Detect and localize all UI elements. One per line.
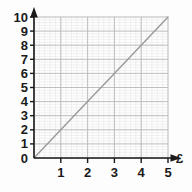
y-axis-tick-label: 10 — [14, 10, 28, 25]
y-axis-tick-label: 2 — [21, 122, 28, 137]
y-axis-tick-label: 1 — [21, 136, 28, 151]
y-axis-tick-labels: 012345678910 — [14, 10, 29, 166]
y-axis-tick-label: 7 — [21, 52, 28, 67]
x-axis-tick-label: 1 — [57, 165, 64, 180]
x-axis-title: £ — [176, 151, 184, 166]
y-axis-tick-label: 3 — [21, 108, 28, 123]
y-axis-tick-label: 0 — [21, 151, 28, 166]
y-axis-tick-label: 5 — [21, 80, 28, 95]
x-axis-tick-label: 5 — [164, 165, 171, 180]
x-axis-tick-label: 3 — [111, 165, 118, 180]
chart-figure: 012345678910 12345 £ — [0, 0, 192, 192]
arrow-up-icon — [30, 7, 38, 18]
x-axis-tick-label: 2 — [84, 165, 91, 180]
line-chart: 012345678910 12345 £ — [0, 0, 192, 192]
y-axis-tick-label: 9 — [21, 24, 28, 39]
y-axis-tick-label: 6 — [21, 66, 28, 81]
y-axis-tick-label: 4 — [21, 94, 29, 109]
y-axis-tick-label: 8 — [21, 38, 28, 53]
x-axis-tick-label: 4 — [138, 165, 146, 180]
x-axis-tick-labels: 12345 — [57, 165, 171, 180]
